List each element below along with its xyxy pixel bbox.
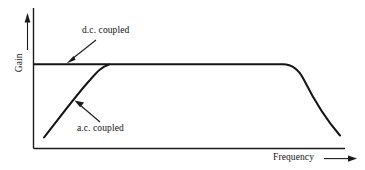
frequency-response-figure: Gain d.c. coupled a.c. coupled Frequency xyxy=(0,0,365,170)
x-axis-label: Frequency xyxy=(273,153,314,163)
arrow-up-left-icon xyxy=(75,100,85,107)
up-arrow-icon xyxy=(25,13,31,23)
dc-leader-line xyxy=(72,40,96,59)
dc-coupled-annotation-label: d.c. coupled xyxy=(82,26,129,36)
ac-coupled-annotation-label: a.c. coupled xyxy=(77,124,124,134)
plot-area xyxy=(0,0,365,170)
right-arrow-icon xyxy=(348,156,357,162)
ac-leader-line xyxy=(80,105,100,122)
y-axis-label: Gain xyxy=(15,40,25,86)
